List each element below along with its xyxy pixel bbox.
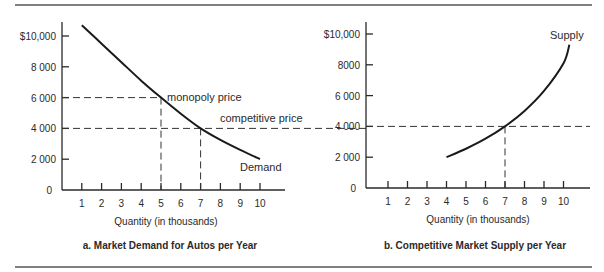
y-tick-label: 0 [350, 183, 356, 194]
y-tick-label: 8000 [338, 60, 361, 71]
y-tick-label: 8 000 [31, 62, 56, 73]
x-tick-label: 4 [138, 198, 144, 209]
panel-a-x-axis-label: Quantity (in thousands) [114, 216, 217, 227]
x-tick-label: 4 [444, 196, 450, 207]
panel-b-supply-chart: 02 0004 0006 0008000$10,00012345678910 [324, 22, 590, 207]
competitive-price-label: competitive price [220, 112, 303, 124]
x-tick-label: 6 [178, 198, 184, 209]
panel-b-x-axis-label: Quantity (in thousands) [426, 214, 529, 225]
x-tick-label: 9 [541, 196, 547, 207]
figure: 02 0004 0006 0008 000$10,00012345678910 … [0, 0, 604, 272]
y-tick-label: 2 000 [335, 152, 360, 163]
supply-curve [447, 45, 570, 157]
x-tick-label: 10 [558, 196, 570, 207]
x-tick-label: 3 [119, 198, 125, 209]
x-tick-label: 1 [79, 198, 85, 209]
y-tick-label: 4 000 [335, 121, 360, 132]
x-tick-label: 7 [502, 196, 508, 207]
y-tick-label: 4 000 [31, 123, 56, 134]
x-tick-label: 3 [424, 196, 430, 207]
y-tick-label: 6 000 [31, 93, 56, 104]
x-tick-label: 9 [237, 198, 243, 209]
x-tick-label: 6 [483, 196, 489, 207]
panel-a-caption: a. Market Demand for Autos per Year [83, 240, 258, 251]
y-tick-label: $10,000 [324, 29, 361, 40]
y-tick-label: 6 000 [335, 91, 360, 102]
x-tick-label: 5 [158, 198, 164, 209]
x-tick-label: 5 [463, 196, 469, 207]
x-tick-label: 8 [218, 198, 224, 209]
panel-b-caption: b. Competitive Market Supply per Year [384, 240, 566, 251]
supply-label: Supply [550, 29, 584, 41]
x-tick-label: 1 [385, 196, 391, 207]
y-tick-label: $10,000 [20, 31, 57, 42]
economics-figure: 02 0004 0006 0008 000$10,00012345678910 … [0, 0, 604, 272]
x-tick-label: 2 [99, 198, 105, 209]
y-tick-label: 0 [46, 185, 52, 196]
x-tick-label: 8 [522, 196, 528, 207]
monopoly-price-label: monopoly price [167, 91, 242, 103]
panel-a-demand-chart: 02 0004 0006 0008 000$10,00012345678910 [20, 22, 366, 209]
y-tick-label: 2 000 [31, 154, 56, 165]
x-tick-label: 10 [254, 198, 266, 209]
demand-label: Demand [240, 161, 282, 173]
x-tick-label: 7 [198, 198, 204, 209]
x-tick-label: 2 [405, 196, 411, 207]
